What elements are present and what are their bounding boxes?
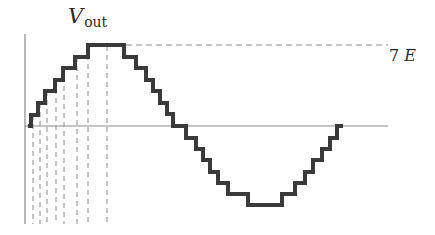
vout-symbol: V	[68, 4, 83, 28]
peak-number: 7	[389, 46, 399, 65]
vout-label: Vout	[68, 4, 107, 30]
sample-dashed-lines	[33, 46, 107, 224]
staircase-sine-diagram	[0, 0, 435, 235]
peak-unit: E	[404, 46, 416, 65]
peak-value-label: 7 E	[389, 46, 416, 65]
vout-subscript: out	[84, 14, 107, 30]
staircase-waveform	[28, 45, 343, 205]
